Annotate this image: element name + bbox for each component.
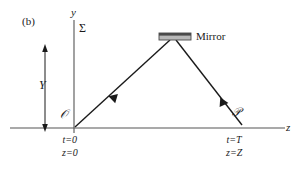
origin-label: 𝒪 (60, 108, 68, 120)
frame-label-sigma: Σ (79, 22, 86, 34)
destination-label: 𝒫 (232, 106, 241, 118)
height-label-Y: Y (39, 79, 46, 91)
mirror-reflective-surface (159, 33, 191, 36)
z-axis-label: z (286, 122, 290, 133)
figure-container: (b) y Σ z Y 𝒪 𝒫 Mirror t=0 z=0 t=T z=Z (0, 0, 299, 174)
outgoing-light-ray (75, 40, 170, 127)
mirror-label: Mirror (196, 31, 225, 42)
reception-position-label: z=Z (226, 147, 242, 158)
emission-position-label: z=0 (62, 147, 78, 158)
y-axis-label: y (71, 7, 76, 18)
reception-time-label: t=T (227, 134, 242, 145)
reception-event-labels: t=T z=Z (226, 134, 242, 158)
emission-time-label: t=0 (63, 134, 78, 145)
height-arrowhead-up (42, 44, 48, 52)
panel-label: (b) (22, 16, 35, 27)
emission-event-labels: t=0 z=0 (62, 134, 78, 158)
